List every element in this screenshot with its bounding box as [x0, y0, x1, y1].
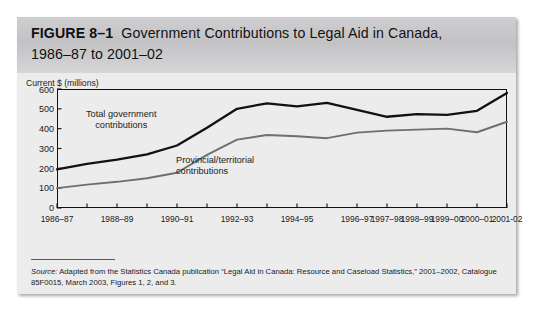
x-tick-label: 1990–91: [161, 214, 194, 224]
figure-number: FIGURE 8–1: [31, 25, 113, 41]
figure-panel: FIGURE 8–1 Government Contributions to L…: [17, 17, 516, 294]
y-tick-100: 100: [28, 183, 54, 193]
annotation-provincial-territorial: Provincial/territorial contributions: [176, 155, 254, 177]
annotation-total-line-1: Total government: [86, 109, 156, 120]
x-tick-label: 2001-02: [492, 214, 523, 224]
source-band: Source: Adapted from the Statistics Cana…: [17, 256, 516, 294]
annotation-provincial-line-2: contributions: [176, 166, 254, 177]
y-tick-400: 400: [28, 124, 54, 134]
y-axis-ticks: 600 500 400 300 200 100 0: [26, 89, 54, 208]
x-tick-label: 1986–87: [41, 214, 74, 224]
y-tick-300: 300: [28, 144, 54, 154]
chart-canvas: [57, 89, 507, 208]
y-tick-600: 600: [28, 85, 54, 95]
figure-title-line-2: 1986–87 to 2001–02: [31, 44, 502, 65]
plot-wrapper: 600 500 400 300 200 100 0 Total governme…: [26, 89, 508, 239]
source-note: Source: Adapted from the Statistics Cana…: [31, 266, 503, 289]
provincial-territorial-line: [57, 122, 507, 188]
y-tick-marks: [57, 89, 62, 208]
total-government-line: [57, 93, 507, 169]
chart-body: Current $ (millions) 600 500 400 300 200…: [17, 73, 516, 256]
x-tick-label: 1997–98: [371, 214, 404, 224]
x-tick-label: 1999–00: [431, 214, 464, 224]
y-tick-200: 200: [28, 164, 54, 174]
source-label: Source:: [31, 267, 58, 276]
y-tick-0: 0: [28, 203, 54, 213]
annotation-total-government: Total government contributions: [86, 109, 156, 131]
y-tick-500: 500: [28, 104, 54, 114]
x-tick-label: 1994–95: [281, 214, 314, 224]
source-body: Adapted from the Statistics Canada publi…: [31, 267, 497, 287]
x-tick-label: 2000–01: [461, 214, 494, 224]
x-tick-label: 1992–93: [221, 214, 254, 224]
figure-title-band: FIGURE 8–1 Government Contributions to L…: [17, 17, 516, 73]
figure-title-text-1: Government Contributions to Legal Aid in…: [121, 25, 442, 41]
x-tick-label: 1996–97: [341, 214, 374, 224]
figure-title-line-1: FIGURE 8–1 Government Contributions to L…: [31, 23, 502, 44]
x-tick-label: 1988–89: [101, 214, 134, 224]
annotation-provincial-line-1: Provincial/territorial: [176, 155, 254, 166]
x-axis-labels: 1986–871988–891990–911992–931994–951996–…: [57, 208, 507, 238]
annotation-total-line-2: contributions: [86, 120, 156, 131]
source-divider: [31, 259, 115, 260]
x-tick-label: 1998–99: [401, 214, 434, 224]
